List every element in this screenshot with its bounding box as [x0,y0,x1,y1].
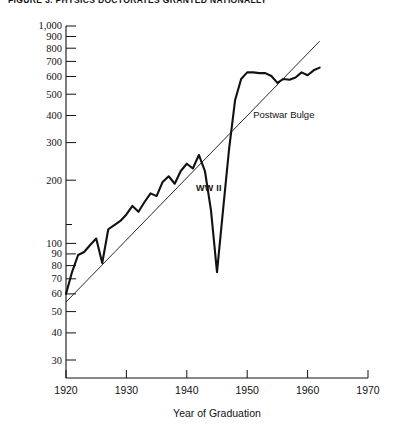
y-label-200: 200 [46,175,62,186]
x-axis-labels: 1920 1930 1940 1950 1960 1970 [54,384,380,396]
y-label-50: 50 [52,306,63,317]
y-label-400: 400 [46,110,62,121]
annotation-postwar-bulge: Postwar Bulge [253,109,314,120]
doctorates-data-series [66,68,320,294]
y-label-60: 60 [52,288,63,299]
y-label-40: 40 [52,327,63,338]
x-label-1930: 1930 [115,384,139,396]
annotation-ww2: WW II [196,183,222,193]
y-label-30: 30 [52,355,63,366]
x-label-1950: 1950 [236,384,260,396]
x-axis-title: Year of Graduation [173,407,261,419]
y-label-1000: 1,000 [38,20,62,31]
y-axis-ticks [66,26,76,360]
y-label-90: 90 [52,248,63,259]
axis-lines [66,26,368,378]
y-label-900: 900 [46,31,62,42]
x-label-1940: 1940 [175,384,199,396]
x-label-1920: 1920 [54,384,78,396]
y-label-500: 500 [46,89,62,100]
y-label-600: 600 [46,71,62,82]
x-label-1970: 1970 [356,384,380,396]
y-label-300: 300 [46,137,62,148]
y-label-70: 70 [52,273,63,284]
x-label-1960: 1960 [296,384,320,396]
y-axis-labels: 1,000 900 800 700 600 500 400 300 200 10… [38,20,62,366]
chart-plot-area: 1,000 900 800 700 600 500 400 300 200 10… [0,0,396,440]
y-label-80: 80 [52,260,63,271]
y-label-700: 700 [46,56,62,67]
y-label-100: 100 [46,238,62,249]
x-axis-ticks [66,370,368,378]
chart-svg: 1,000 900 800 700 600 500 400 300 200 10… [0,0,396,440]
y-label-800: 800 [46,43,62,54]
